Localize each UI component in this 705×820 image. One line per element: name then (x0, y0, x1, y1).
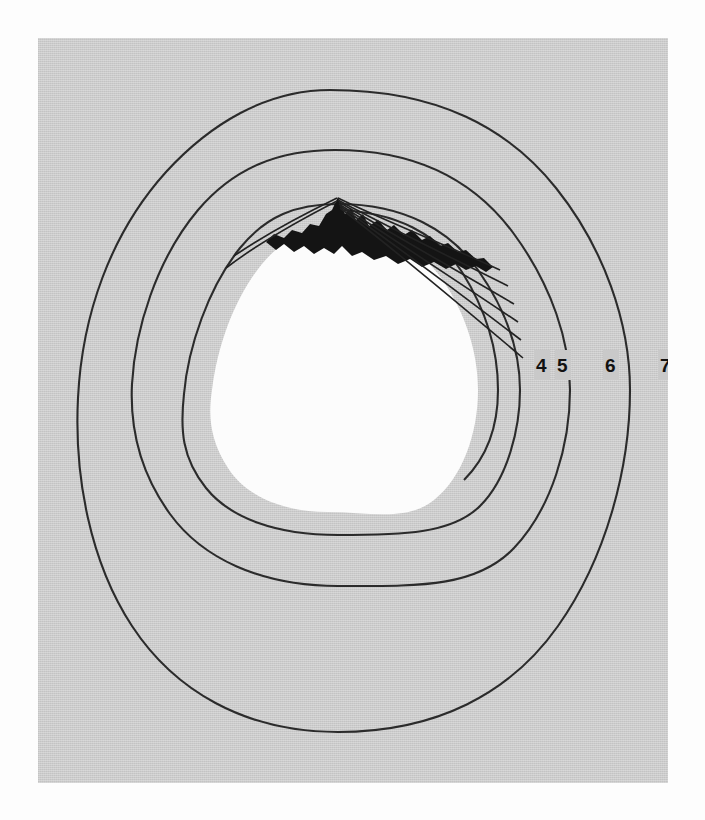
contour-label-7: 7 (660, 356, 668, 375)
contour-plot-panel: 4 5 6 7 (38, 38, 668, 783)
contour-label-5: 5 (557, 356, 568, 375)
inner-white-region (210, 228, 478, 514)
contour-label-4: 4 (536, 356, 547, 375)
contour-label-6: 6 (605, 356, 616, 375)
figure-root: 4 5 6 7 (0, 0, 705, 820)
contour-svg (38, 38, 668, 783)
